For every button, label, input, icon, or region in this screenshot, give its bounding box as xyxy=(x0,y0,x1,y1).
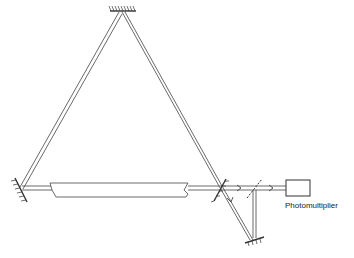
gain-tube-outline xyxy=(50,183,188,197)
photomultiplier-label: Photomultiplier xyxy=(285,201,338,210)
photomultiplier-box xyxy=(286,180,310,196)
beam-vertical xyxy=(253,190,256,238)
bottom-mirror xyxy=(245,237,264,246)
beam-left-to-top xyxy=(20,12,122,189)
beam-splitter xyxy=(247,179,262,198)
beam-top-to-right xyxy=(122,12,222,186)
top-mirror xyxy=(109,6,136,11)
ring-laser-diagram xyxy=(0,0,354,258)
beam-transmitted-diagonal xyxy=(219,186,253,240)
